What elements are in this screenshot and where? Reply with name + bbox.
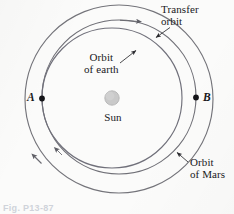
earth-orbit-leader-line: [120, 51, 136, 64]
sun-highlight: [106, 92, 115, 101]
figure-caption: Fig. P13-87: [3, 203, 54, 213]
mars-orbit-label-line2: of Mars: [190, 168, 225, 180]
point-b-marker: [193, 95, 199, 101]
earth-orbit-label: Orbitof earth: [84, 52, 119, 75]
mars-orbit-direction-arrow: [34, 156, 42, 164]
transfer-orbit-leader-line: [156, 28, 170, 38]
mars-orbit-leader-line: [177, 153, 188, 163]
earth-orbit-direction-arrow: [56, 149, 62, 155]
earth-orbit-label-line1: Orbit: [89, 51, 113, 63]
mars-orbit-label-line1: Orbit: [190, 156, 214, 168]
transfer-orbit-direction-arrow: [120, 20, 139, 21]
transfer-orbit-label-line1: Transfer: [161, 3, 199, 15]
sun-label: Sun: [100, 112, 126, 124]
point-a-label: A: [27, 92, 35, 104]
earth-orbit-label-line2: of earth: [84, 63, 119, 75]
transfer-orbit-label-line2: orbit: [161, 15, 182, 27]
orbit-transfer-diagram: Transferorbit Orbitof earth Orbitof Mars…: [0, 0, 234, 214]
point-b-label: B: [203, 92, 211, 104]
transfer-orbit-label: Transferorbit: [161, 4, 199, 27]
mars-orbit-label: Orbitof Mars: [190, 157, 225, 180]
point-a-marker: [39, 96, 45, 102]
diagram-canvas: [0, 0, 234, 214]
